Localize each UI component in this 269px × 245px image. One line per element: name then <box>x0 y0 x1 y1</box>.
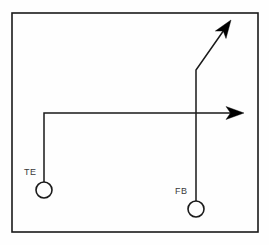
te-route-path <box>44 113 238 182</box>
player-marker-fb[interactable] <box>188 201 204 217</box>
fb-route-arrowhead-icon <box>215 16 236 38</box>
play-diagram-svg: TE FB <box>0 0 269 245</box>
diagram-canvas: TE FB <box>0 0 269 245</box>
field-boundary <box>12 13 258 232</box>
player-label-fb: FB <box>175 186 187 196</box>
player-label-te: TE <box>24 167 36 177</box>
fb-route-path <box>196 30 224 201</box>
player-marker-te[interactable] <box>36 182 52 198</box>
te-route-group <box>44 107 244 183</box>
